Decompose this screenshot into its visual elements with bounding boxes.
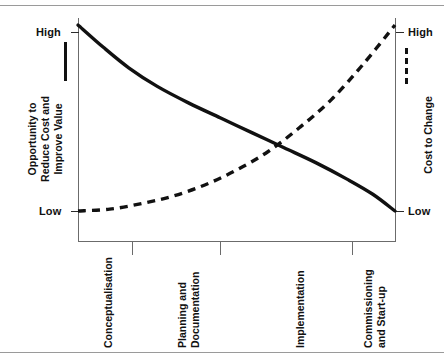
left-axis-label-high: High [36, 26, 61, 38]
right-axis-tick-low [396, 211, 404, 212]
left-axis-title-line3: Improve Value [52, 74, 65, 204]
x-axis-label-commissioning-and-start-up-line1: Commissioning [362, 269, 375, 348]
legend-dashed-line-icon [405, 48, 408, 86]
figure-top-rule [0, 5, 444, 6]
x-axis-label-planning-and-documentation: Planning andDocumentation [176, 272, 202, 348]
x-axis-label-conceptualisation: Conceptualisation [102, 257, 115, 348]
left-axis-line [78, 18, 79, 242]
x-axis-label-commissioning-and-start-up: Commissioningand Start-up [362, 269, 388, 348]
right-axis-title: Cost to Change [422, 70, 436, 200]
left-axis-label-low: Low [39, 205, 61, 217]
cost-to-change-curve [78, 25, 395, 211]
right-axis-tick-high [396, 32, 404, 33]
right-axis-label-high: High [408, 26, 433, 38]
x-axis-label-implementation: Implementation [294, 270, 307, 348]
x-axis-label-implementation-line1: Implementation [294, 270, 307, 348]
opportunity-curve [78, 25, 395, 211]
x-axis-label-planning-and-documentation-line2: Documentation [189, 272, 202, 348]
figure-container: High Low High Low Opportunity to Reduce … [0, 0, 444, 360]
x-axis-line [78, 241, 396, 242]
right-axis-line [395, 18, 396, 242]
left-axis-title-line2: Reduce Cost and [39, 74, 52, 204]
right-axis-label-low: Low [408, 205, 430, 217]
x-axis-tick-1 [132, 242, 133, 255]
x-axis-tick-2 [220, 242, 221, 255]
left-axis-title: Opportunity to Reduce Cost and Improve V… [26, 74, 68, 204]
left-axis-title-line1: Opportunity to [26, 74, 39, 204]
figure-bottom-rule [0, 352, 444, 353]
x-axis-label-commissioning-and-start-up-line2: and Start-up [375, 269, 388, 348]
left-axis-tick-high [71, 32, 79, 33]
x-axis-label-planning-and-documentation-line1: Planning and [176, 272, 189, 348]
x-axis-tick-3 [352, 242, 353, 255]
x-axis-label-conceptualisation-line1: Conceptualisation [102, 257, 115, 348]
left-axis-tick-low [71, 211, 79, 212]
